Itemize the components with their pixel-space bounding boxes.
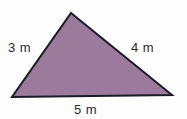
triangle-polygon [12, 13, 172, 97]
side-label-right: 4 m [131, 41, 154, 54]
triangle-figure: 3 m 4 m 5 m [0, 0, 187, 119]
side-label-left: 3 m [8, 41, 31, 54]
side-label-bottom: 5 m [74, 103, 97, 116]
